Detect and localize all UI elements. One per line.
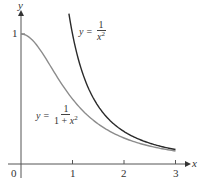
- eq-upper-fraction: 1 x2: [95, 20, 107, 42]
- x-tick-label-1: 1: [70, 168, 76, 179]
- origin-label: 0: [11, 168, 17, 179]
- curve-1-over-1-plus-x-squared: [21, 34, 176, 151]
- eq-lower-equals: =: [43, 110, 49, 121]
- x-axis-arrow-icon: [185, 161, 191, 167]
- x-tick-label-3: 3: [173, 168, 179, 179]
- equation-label-lower: y = 1 1 + x2: [36, 104, 80, 126]
- equation-label-upper: y = 1 x2: [79, 20, 107, 42]
- eq-upper-lhs: y: [79, 26, 83, 37]
- eq-lower-numerator: 1: [61, 104, 70, 115]
- x-tick-label-2: 2: [121, 168, 127, 179]
- eq-lower-fraction: 1 1 + x2: [52, 104, 80, 126]
- x-axis-label: x: [192, 158, 197, 169]
- eq-upper-equals: =: [86, 26, 92, 37]
- y-axis-label: y: [18, 0, 23, 11]
- eq-upper-denominator: x2: [95, 31, 107, 42]
- eq-lower-denominator: 1 + x2: [52, 115, 80, 126]
- eq-lower-lhs: y: [36, 110, 40, 121]
- y-tick-label-1: 1: [12, 28, 18, 39]
